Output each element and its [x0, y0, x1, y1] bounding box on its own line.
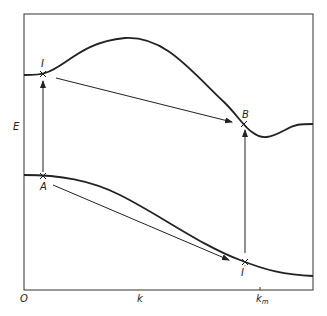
km-label: km — [256, 293, 269, 306]
band-diagram: I B A I′ E O k km — [0, 0, 327, 316]
x-axis-label: k — [137, 293, 144, 304]
upper-band-curve — [24, 38, 313, 137]
origin-label: O — [20, 293, 28, 304]
arrow-a-to-iprime — [53, 185, 229, 260]
label-iprime: I′ — [241, 265, 246, 278]
label-a: A — [39, 181, 47, 192]
lower-band-curve — [24, 175, 313, 276]
label-b: B — [242, 109, 249, 120]
label-i: I — [41, 58, 44, 69]
plot-frame — [24, 14, 313, 290]
y-axis-label: E — [13, 121, 20, 132]
point-b-marker — [241, 121, 247, 127]
